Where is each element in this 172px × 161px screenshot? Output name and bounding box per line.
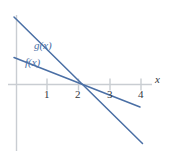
x-axis-label: x xyxy=(155,74,160,85)
graph-figure: 1 2 3 4 x g(x) f(x) xyxy=(0,0,172,161)
x-tick-label-1: 1 xyxy=(44,89,50,100)
x-tick-label-3: 3 xyxy=(107,89,113,100)
x-tick-label-2: 2 xyxy=(75,89,81,100)
curve-label-g: g(x) xyxy=(34,40,52,51)
plot-canvas xyxy=(0,0,172,161)
curve-g xyxy=(14,17,143,144)
curve-label-f: f(x) xyxy=(25,57,40,68)
x-tick-label-4: 4 xyxy=(138,89,144,100)
